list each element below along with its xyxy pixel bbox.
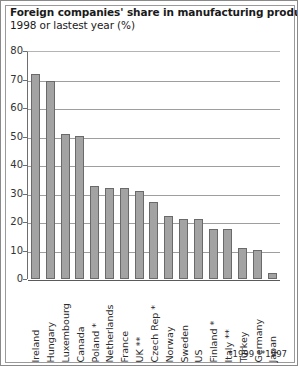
x-label-slot: Turkey	[235, 297, 250, 355]
x-tick-label: Netherlands	[104, 285, 115, 365]
x-tick-label: Sweden	[178, 285, 189, 365]
x-tick-label: Finland *	[208, 285, 219, 365]
x-label-slot: Japan	[265, 297, 280, 355]
bar-series	[28, 51, 280, 279]
y-tick-mark	[23, 80, 27, 81]
y-tick-mark	[23, 279, 27, 280]
bar	[253, 250, 262, 279]
chart-figure: Foreign companies' share in manufacturin…	[0, 0, 298, 366]
gridline	[28, 280, 280, 281]
x-label-slot: Italy **	[221, 297, 236, 355]
x-label-slot: Netherlands	[102, 297, 117, 355]
y-tick-label: 0	[1, 274, 23, 284]
y-tick-mark	[23, 194, 27, 195]
bar-slot	[87, 51, 102, 279]
x-label-slot: UK **	[132, 297, 147, 355]
bar-slot	[265, 51, 280, 279]
chart-title: Foreign companies' share in manufacturin…	[10, 6, 282, 19]
bar	[194, 219, 203, 279]
x-tick-label: Canada	[74, 285, 85, 365]
bar-slot	[161, 51, 176, 279]
bar-slot	[250, 51, 265, 279]
bar	[164, 216, 173, 279]
x-tick-label: Czech Rep *	[148, 285, 159, 365]
x-label-slot: Norway	[161, 297, 176, 355]
x-label-slot: Poland *	[87, 297, 102, 355]
bar	[120, 188, 129, 279]
x-tick-label: US	[193, 285, 204, 365]
y-tick-label: 40	[1, 160, 23, 170]
bar	[268, 273, 277, 279]
y-tick-mark	[23, 108, 27, 109]
x-label-slot: Canada	[72, 297, 87, 355]
x-label-slot: Germany	[250, 297, 265, 355]
bar	[90, 186, 99, 279]
x-tick-label: Luxembourg	[60, 285, 71, 365]
y-tick-label: 10	[1, 246, 23, 256]
x-label-slot: France	[117, 297, 132, 355]
x-label-slot: US	[191, 297, 206, 355]
bar-slot	[147, 51, 162, 279]
bar	[105, 188, 114, 279]
bar	[149, 202, 158, 279]
chart-title-block: Foreign companies' share in manufacturin…	[10, 6, 282, 32]
y-tick-mark	[23, 165, 27, 166]
y-tick-mark	[23, 251, 27, 252]
x-axis-labels: IrelandHungaryLuxembourgCanadaPoland *Ne…	[28, 297, 280, 355]
bar	[209, 229, 218, 279]
x-label-slot: Czech Rep *	[147, 297, 162, 355]
x-tick-label: Hungary	[45, 285, 56, 365]
bar	[238, 248, 247, 279]
bar	[46, 81, 55, 279]
bar-slot	[43, 51, 58, 279]
y-tick-label: 20	[1, 217, 23, 227]
bar	[61, 134, 70, 279]
bar-slot	[191, 51, 206, 279]
plot-wrapper: 80706050403020100	[1, 45, 291, 295]
x-label-slot: Sweden	[176, 297, 191, 355]
x-tick-label: France	[119, 285, 130, 365]
bar	[31, 74, 40, 279]
bar-slot	[235, 51, 250, 279]
bar-slot	[72, 51, 87, 279]
y-tick-label: 60	[1, 103, 23, 113]
bar	[223, 229, 232, 279]
bar-slot	[206, 51, 221, 279]
chart-footnote: *1999 **1997	[228, 349, 287, 359]
x-tick-label: Norway	[163, 285, 174, 365]
x-tick-label: Poland *	[89, 285, 100, 365]
bar-slot	[221, 51, 236, 279]
bar-slot	[132, 51, 147, 279]
chart-subtitle: 1998 or lastest year (%)	[10, 19, 282, 32]
bar	[179, 219, 188, 279]
x-label-slot: Finland *	[206, 297, 221, 355]
x-label-slot: Ireland	[28, 297, 43, 355]
x-label-slot: Luxembourg	[58, 297, 73, 355]
bar-slot	[58, 51, 73, 279]
bar-slot	[117, 51, 132, 279]
x-tick-label: UK **	[134, 285, 145, 365]
y-tick-label: 80	[1, 46, 23, 56]
y-tick-label: 70	[1, 75, 23, 85]
y-tick-mark	[23, 137, 27, 138]
bar-slot	[176, 51, 191, 279]
bar	[75, 136, 84, 279]
y-tick-label: 30	[1, 189, 23, 199]
y-tick-label: 50	[1, 132, 23, 142]
y-tick-mark	[23, 222, 27, 223]
bar	[135, 191, 144, 279]
bar-slot	[102, 51, 117, 279]
y-tick-mark	[23, 51, 27, 52]
bar-slot	[28, 51, 43, 279]
x-label-slot: Hungary	[43, 297, 58, 355]
x-tick-label: Ireland	[30, 285, 41, 365]
